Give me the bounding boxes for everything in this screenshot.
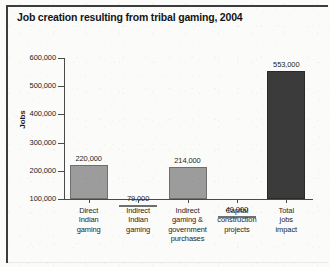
y-axis-tick — [58, 171, 64, 172]
y-axis-tick-label: 500,000 — [8, 81, 56, 91]
bar-chart-plot-area: Jobs 600,000500,000400,000300,000200,000… — [0, 0, 330, 267]
x-axis-tick — [188, 199, 189, 203]
y-axis-tick — [58, 114, 64, 115]
x-axis-tick — [286, 199, 287, 203]
bar-value-label: 220,000 — [62, 154, 116, 163]
y-axis-tick-label-text: 400,000 — [12, 109, 56, 118]
chart-page: Job creation resulting from tribal gamin… — [0, 0, 330, 267]
y-axis-tick-label: 600,000 — [8, 53, 56, 63]
y-axis-tick-label-text: 600,000 — [12, 53, 56, 62]
y-axis-tick-label-text: 300,000 — [12, 138, 56, 147]
bar — [169, 167, 207, 199]
x-axis-category-label-line: impact — [258, 225, 315, 234]
x-axis-tick — [138, 199, 139, 203]
x-axis-category-label-line: Total — [258, 206, 315, 215]
x-axis-tick — [89, 199, 90, 203]
bar — [70, 165, 108, 199]
x-axis-category-label: Totaljobsimpact — [258, 206, 315, 234]
y-axis-tick-label-text: 100,000 — [12, 194, 56, 203]
x-axis-line — [58, 199, 313, 200]
y-axis-tick — [58, 143, 64, 144]
bar-value-label: 553,000 — [259, 60, 313, 69]
y-axis-tick — [58, 199, 64, 200]
x-axis-tick — [237, 199, 238, 203]
y-axis-tick-label: 400,000 — [8, 109, 56, 119]
bar — [267, 71, 305, 199]
bar-value-label: 214,000 — [161, 156, 215, 165]
y-axis-tick-label-text: 200,000 — [12, 166, 56, 175]
y-axis-tick-label: 100,000 — [8, 194, 56, 204]
y-axis-tick-label: 300,000 — [8, 138, 56, 148]
y-axis-tick — [58, 58, 64, 59]
y-axis-tick-label: 200,000 — [8, 166, 56, 176]
x-axis-category-label-line: jobs — [258, 215, 315, 224]
y-axis-line — [64, 58, 65, 200]
y-axis-tick — [58, 86, 64, 87]
x-axis-category-label-line: purchases — [159, 234, 216, 243]
y-axis-tick-label-text: 500,000 — [12, 81, 56, 90]
